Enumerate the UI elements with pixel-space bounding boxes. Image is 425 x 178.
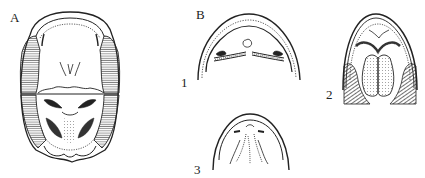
subfigure-2-drawing [343, 14, 417, 104]
subfigure-3-drawing [213, 114, 289, 170]
panel-label-b: B [196, 8, 205, 21]
anatomical-figure: A B 1 2 3 [0, 0, 425, 178]
figure-drawing [0, 0, 425, 178]
panel-label-a: A [10, 11, 19, 24]
subfigure-1-drawing [198, 14, 300, 80]
subfigure-label-2: 2 [326, 88, 333, 101]
subfigure-label-1: 1 [181, 76, 188, 89]
subfigure-label-3: 3 [194, 163, 201, 176]
panel-a-drawing [20, 12, 119, 162]
